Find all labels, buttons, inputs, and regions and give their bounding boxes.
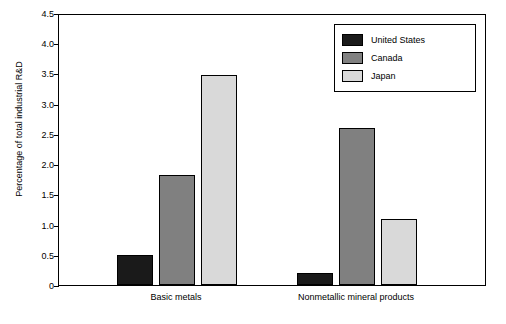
y-tick-label: 3.0	[41, 100, 54, 110]
legend-label: United States	[371, 35, 425, 45]
y-tick-label: 2.5	[41, 130, 54, 140]
bar-chart: Percentage of total industrial R&D 00.51…	[0, 0, 506, 324]
x-group-label: Nonmetallic mineral products	[298, 292, 414, 302]
bar	[117, 255, 153, 285]
bar	[381, 219, 417, 285]
y-tick-label: 0.5	[41, 251, 54, 261]
y-tick-label: 1.5	[41, 190, 54, 200]
y-tick-label: 2.0	[41, 160, 54, 170]
y-axis-title: Percentage of total industrial R&D	[14, 4, 24, 254]
bar	[339, 128, 375, 285]
y-tick-label: 4.0	[41, 39, 54, 49]
legend-swatch	[342, 34, 363, 46]
bar	[201, 75, 237, 285]
bar	[159, 175, 195, 285]
legend-item: Canada	[342, 49, 468, 67]
legend-label: Canada	[371, 53, 403, 63]
y-tick-label: 3.5	[41, 69, 54, 79]
legend-item: United States	[342, 31, 468, 49]
x-group-label: Basic metals	[150, 292, 201, 302]
y-axis-ticks: 00.51.01.52.02.53.03.54.04.5	[26, 14, 54, 286]
y-tick-label: 4.5	[41, 9, 54, 19]
legend-swatch	[342, 52, 363, 64]
legend-item: Japan	[342, 67, 468, 85]
legend: United StatesCanadaJapan	[334, 24, 476, 92]
y-tick-mark	[54, 286, 59, 287]
bar	[297, 273, 333, 285]
legend-swatch	[342, 70, 363, 82]
y-tick-label: 1.0	[41, 221, 54, 231]
legend-label: Japan	[371, 71, 396, 81]
